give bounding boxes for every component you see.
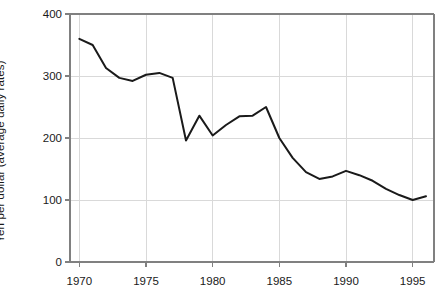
x-tick-label: 1980 [200,275,226,287]
plot-area [0,0,448,303]
x-tick-label: 1990 [333,275,359,287]
x-axis-tick-labels: 197019751980198519901995 [0,275,448,295]
line-chart: Yen per dollar (average daily rates) 010… [0,0,448,303]
gridlines [70,14,434,262]
data-series-lines [79,39,426,200]
x-tick-label: 1970 [67,275,93,287]
x-tick-label: 1975 [133,275,159,287]
axis-tick-marks [65,14,413,267]
x-tick-label: 1995 [400,275,426,287]
x-tick-label: 1985 [267,275,293,287]
series-line-0 [79,39,426,200]
